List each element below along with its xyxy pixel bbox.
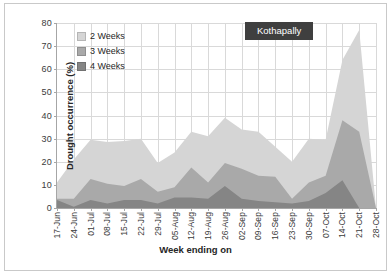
x-axis-tick-label: 14-Oct — [337, 212, 347, 238]
x-axis-title: Week ending on — [5, 244, 386, 255]
x-axis-tick-label: 09-Sep — [253, 212, 263, 240]
y-axis-tick-mark — [54, 23, 57, 24]
y-axis-tick-label: 10 — [42, 180, 52, 190]
legend-swatch-icon — [77, 62, 86, 71]
x-axis-tick-mark — [74, 208, 75, 211]
y-axis-tick-mark — [54, 185, 57, 186]
x-axis-tick-mark — [292, 208, 293, 211]
x-axis-tick-label: 12-Aug — [186, 212, 196, 240]
y-axis-tick-mark — [54, 46, 57, 47]
gridline-vertical — [376, 23, 377, 208]
x-axis-tick-mark — [107, 208, 108, 211]
y-axis-tick-mark — [54, 116, 57, 117]
x-axis-tick-mark — [225, 208, 226, 211]
chart-title-badge: Kothapally — [245, 22, 313, 40]
legend-swatch-icon — [77, 47, 86, 56]
x-axis-tick-mark — [242, 208, 243, 211]
x-axis-tick-mark — [175, 208, 176, 211]
x-axis-tick-mark — [57, 208, 58, 211]
legend-item[interactable]: 2 Weeks — [77, 31, 125, 41]
x-axis-tick-label: 15-Jul — [119, 212, 129, 236]
y-axis-tick-label: 20 — [42, 157, 52, 167]
x-axis-tick-mark — [258, 208, 259, 211]
x-axis-tick-label: 02-Sep — [237, 212, 247, 240]
x-axis-tick-label: 05-Aug — [170, 212, 180, 240]
legend-item[interactable]: 4 Weeks — [77, 61, 125, 71]
legend-swatch-icon — [77, 32, 86, 41]
legend-item[interactable]: 3 Weeks — [77, 46, 125, 56]
y-axis-tick-mark — [54, 69, 57, 70]
x-axis-tick-label: 01-Jul — [86, 212, 96, 236]
y-axis-title: Drought occurrence (%) — [64, 61, 75, 169]
y-axis-tick-mark — [54, 139, 57, 140]
x-axis-tick-label: 07-Oct — [321, 212, 331, 238]
y-axis-tick-label: 30 — [42, 134, 52, 144]
x-axis-tick-label: 23-Sep — [287, 212, 297, 240]
x-axis-tick-label: 30-Sep — [304, 212, 314, 240]
chart-frame: 01020304050607080 17-Jun24-Jun01-Jul08-J… — [4, 3, 387, 271]
legend-item-label: 3 Weeks — [90, 46, 125, 56]
x-axis-tick-label: 17-Jun — [52, 212, 62, 239]
chart-legend: 2 Weeks3 Weeks4 Weeks — [77, 31, 125, 71]
y-axis-tick-mark — [54, 92, 57, 93]
x-axis-tick-label: 16-Sep — [270, 212, 280, 240]
x-axis-tick-label: 21-Oct — [354, 212, 364, 238]
x-axis-tick-mark — [141, 208, 142, 211]
y-axis-tick-label: 80 — [42, 18, 52, 28]
x-axis-tick-mark — [309, 208, 310, 211]
x-axis-tick-label: 24-Jun — [69, 212, 79, 239]
x-axis-tick-mark — [376, 208, 377, 211]
y-axis-tick-label: 60 — [42, 64, 52, 74]
y-axis-tick-label: 40 — [42, 111, 52, 121]
x-axis-tick-mark — [275, 208, 276, 211]
x-axis-tick-label: 29-Jul — [153, 212, 163, 236]
x-axis-tick-mark — [208, 208, 209, 211]
x-axis-tick-label: 22-Jul — [136, 212, 146, 236]
x-axis-tick-mark — [191, 208, 192, 211]
x-axis-tick-label: 19-Aug — [203, 212, 213, 240]
x-axis-tick-mark — [91, 208, 92, 211]
y-axis-tick-mark — [54, 162, 57, 163]
x-axis-tick-mark — [124, 208, 125, 211]
y-axis-tick-label: 50 — [42, 87, 52, 97]
x-axis-tick-label: 08-Jul — [102, 212, 112, 236]
x-axis-tick-mark — [158, 208, 159, 211]
x-axis-tick-mark — [359, 208, 360, 211]
x-axis-tick-mark — [326, 208, 327, 211]
x-axis-tick-label: 28-Oct — [371, 212, 381, 238]
legend-item-label: 2 Weeks — [90, 31, 125, 41]
y-axis-tick-label: 70 — [42, 41, 52, 51]
x-axis-tick-mark — [342, 208, 343, 211]
x-axis-tick-label: 26-Aug — [220, 212, 230, 240]
legend-item-label: 4 Weeks — [90, 61, 125, 71]
